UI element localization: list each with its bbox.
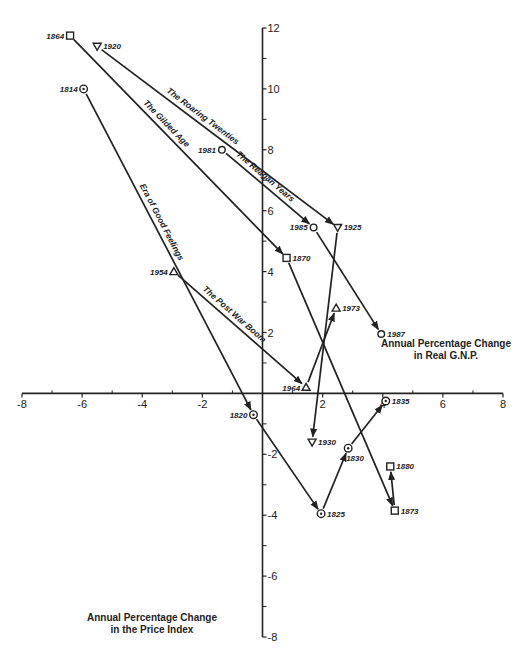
point-label: 1925 [344, 223, 362, 232]
series-segment [102, 50, 334, 225]
point-label: 1825 [327, 510, 345, 519]
point-label: 1830 [346, 454, 364, 463]
triangle-down-marker [93, 43, 101, 50]
circle-dot-center [320, 512, 322, 514]
x-tick-label: 2 [320, 398, 326, 410]
x-tick-label: -6 [77, 398, 87, 410]
point-label: 1835 [392, 397, 410, 406]
era-label: Era of Good Feelings [138, 182, 187, 263]
triangle-down-marker [308, 439, 316, 446]
circle-dot-center [385, 400, 387, 402]
y-tick-label: 12 [268, 22, 280, 34]
y-axis-title-line1: Annual Percentage Change [87, 612, 217, 623]
y-tick-label: 6 [268, 205, 274, 217]
triangle-down-marker [334, 224, 342, 231]
y-axis-title-line2: in the Price Index [111, 624, 194, 635]
x-tick-label: -2 [197, 398, 207, 410]
circle-dot-center [252, 414, 254, 416]
series-segment [391, 472, 394, 505]
x-tick-label: -4 [137, 398, 147, 410]
square-marker [391, 507, 398, 514]
series-segment [352, 405, 383, 444]
point-label: 1814 [60, 85, 78, 94]
point-label: 1870 [293, 254, 311, 263]
series-segment [178, 275, 302, 383]
square-marker [387, 463, 394, 470]
circle-dot-center [347, 447, 349, 449]
x-axis-title-line2: in Real G.N.P. [414, 350, 479, 361]
x-tick-label: 6 [440, 398, 446, 410]
phase-diagram-chart: -8-6-4-22468-8-6-4-224681012 Era of Good… [0, 0, 521, 654]
circle-dot-center [82, 88, 84, 90]
point-markers [67, 32, 399, 517]
circle-marker [219, 147, 226, 154]
circle-marker [310, 224, 317, 231]
series-segment [317, 232, 379, 329]
square-marker [67, 32, 74, 39]
x-tick-label: -8 [17, 398, 27, 410]
point-label: 1820 [230, 411, 248, 420]
x-tick-label: 8 [500, 398, 506, 410]
circle-marker [378, 331, 385, 338]
series-segment [74, 40, 283, 254]
y-tick-label: 10 [268, 83, 280, 95]
square-marker [283, 254, 290, 261]
point-label: 1964 [282, 384, 300, 393]
point-label: 1920 [103, 42, 121, 51]
y-tick-label: -6 [268, 570, 278, 582]
point-label: 1864 [46, 32, 64, 41]
series-lines [74, 40, 394, 510]
point-label: 1930 [318, 438, 336, 447]
era-label: The Reagan Years [234, 149, 297, 204]
point-label: 1985 [290, 223, 308, 232]
era-label: The Post War Boom [201, 284, 269, 345]
y-tick-label: 4 [268, 266, 274, 278]
series-segment [289, 263, 393, 506]
point-labels: Era of Good FeelingsThe Gilded AgeThe Ro… [46, 32, 419, 519]
triangle-up-marker [302, 383, 310, 390]
point-label: 1973 [342, 304, 360, 313]
point-label: 1981 [198, 146, 216, 155]
y-tick-label: -8 [268, 631, 278, 643]
y-tick-label: 8 [268, 144, 274, 156]
triangle-up-marker [332, 304, 340, 311]
x-axis-title-line1: Annual Percentage Change [381, 338, 511, 349]
series-segment [86, 94, 251, 410]
series-segment [257, 419, 318, 509]
y-tick-label: -2 [268, 448, 278, 460]
series-segment [323, 453, 346, 508]
point-label: 1954 [150, 268, 168, 277]
point-label: 1873 [401, 507, 419, 516]
point-label: 1880 [396, 462, 414, 471]
y-tick-label: -4 [268, 509, 278, 521]
